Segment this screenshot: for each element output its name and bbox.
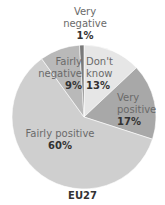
label-very-negative: Very negative 1% (60, 6, 110, 42)
chart-title: EU27 (0, 190, 165, 201)
label-fairly-negative: Fairly negative 9% (38, 56, 82, 92)
label-dont-know: Don't know 13% (86, 56, 126, 92)
label-very-positive: Very positive 17% (117, 92, 157, 128)
label-fairly-positive: Fairly positive 60% (20, 128, 100, 152)
